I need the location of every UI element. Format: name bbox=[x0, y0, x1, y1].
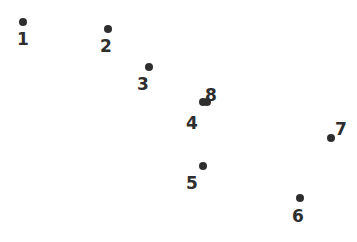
point-marker-6[interactable] bbox=[296, 194, 304, 202]
point-label-2: 2 bbox=[100, 38, 112, 55]
point-label-5: 5 bbox=[186, 175, 198, 192]
point-label-6: 6 bbox=[292, 208, 304, 225]
point-marker-3[interactable] bbox=[145, 63, 153, 71]
point-marker-1[interactable] bbox=[19, 18, 27, 26]
point-marker-7[interactable] bbox=[327, 134, 335, 142]
point-label-4: 4 bbox=[186, 115, 198, 132]
point-marker-2[interactable] bbox=[104, 25, 112, 33]
point-label-7: 7 bbox=[335, 121, 347, 138]
point-label-8: 8 bbox=[205, 87, 217, 104]
point-label-3: 3 bbox=[137, 76, 149, 93]
scatter-canvas: 12345678 bbox=[0, 0, 357, 242]
point-label-1: 1 bbox=[17, 31, 29, 48]
point-marker-5[interactable] bbox=[199, 162, 207, 170]
